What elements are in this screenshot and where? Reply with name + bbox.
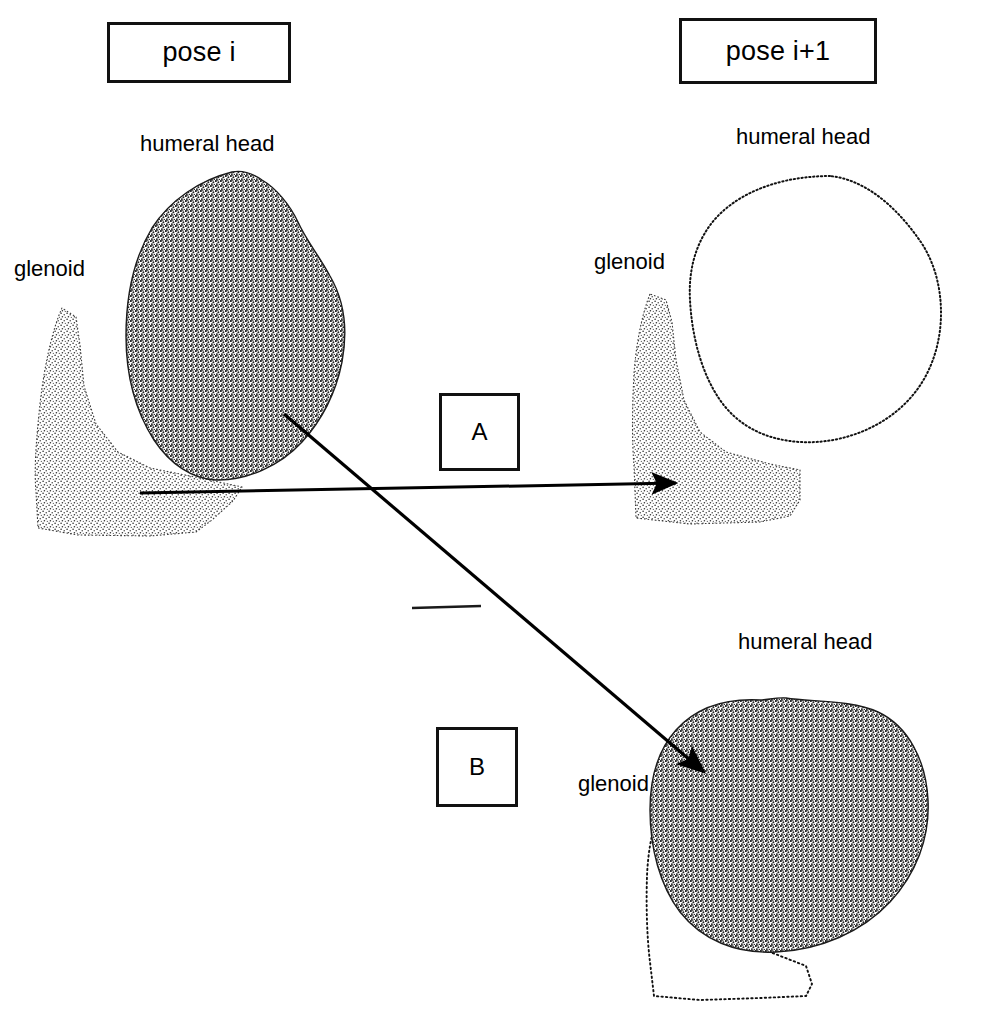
humeral-head-pose-i [126,171,345,480]
panel-label-a: A [471,418,487,446]
figure-canvas: pose i pose i+1 A B humeral head glenoid… [0,0,987,1020]
glenoid-pose-i1-a [633,294,801,524]
label-glenoid-pose-i1-a: glenoid [594,249,665,275]
pose-i-plus-1-label: pose i+1 [726,36,830,67]
label-humeral-head-pose-i: humeral head [140,131,275,157]
pose-i-plus-1-title-box: pose i+1 [679,18,877,84]
label-glenoid-pose-i: glenoid [14,256,85,282]
panel-label-box-b: B [436,727,518,807]
humeral-head-pose-i1-a [690,176,941,442]
pose-i-label: pose i [162,37,235,68]
label-glenoid-pose-i1-b: glenoid [578,771,649,797]
panel-label-box-a: A [439,393,520,471]
panel-label-b: B [469,753,485,781]
humeral-head-pose-i1-b [650,698,928,952]
label-humeral-head-pose-i1-a: humeral head [736,124,871,150]
pose-i-title-box: pose i [107,22,291,83]
label-humeral-head-pose-i1-b: humeral head [738,629,873,655]
divider-tick-mark [412,606,481,608]
